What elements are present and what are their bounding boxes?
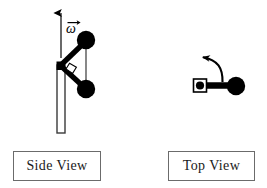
side-view-group: [57, 13, 96, 133]
top-view-group: [194, 57, 246, 95]
hinge-joint: [57, 62, 66, 71]
upper-mass: [77, 31, 95, 49]
top-view-label: Top View: [183, 159, 241, 173]
shaft-center-dot: [196, 81, 204, 89]
vertical-shaft: [57, 65, 65, 133]
end-mass: [227, 77, 245, 95]
top-view-label-box: Top View: [168, 151, 255, 181]
side-view-label: Side View: [26, 159, 87, 173]
lower-mass: [77, 80, 95, 98]
figure-root: ω Side View Top View: [0, 0, 267, 188]
side-view-label-box: Side View: [13, 151, 101, 181]
